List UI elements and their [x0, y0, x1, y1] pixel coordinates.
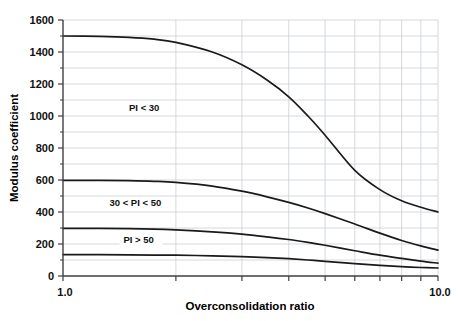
x-axis-title: Overconsolidation ratio [185, 300, 314, 312]
x-axis-max-label: 10.0 [429, 286, 450, 298]
y-tick-label: 1200 [30, 78, 54, 90]
y-tick-label: 800 [36, 142, 54, 154]
y-tick-label: 1000 [30, 110, 54, 122]
chart-background [0, 0, 459, 321]
y-tick-label: 0 [48, 270, 54, 282]
series-annotation-0: PI < 30 [129, 102, 159, 113]
modulus-coefficient-chart: 02004006008001000120014001600 1.0 10.0 O… [0, 0, 459, 321]
y-tick-label: 600 [36, 174, 54, 186]
series-annotation-1: 30 < PI < 50 [109, 197, 161, 208]
y-tick-label: 1400 [30, 46, 54, 58]
x-axis-tick-labels: 10.0 [429, 286, 450, 298]
series-annotation-2: PI > 50 [124, 234, 154, 245]
x-axis-min-label: 1.0 [57, 286, 72, 298]
y-tick-label: 200 [36, 238, 54, 250]
y-tick-label: 400 [36, 206, 54, 218]
y-tick-label: 1600 [30, 14, 54, 26]
chart-container: 02004006008001000120014001600 1.0 10.0 O… [0, 0, 459, 321]
y-axis-title: Modulus coefficient [8, 94, 20, 202]
